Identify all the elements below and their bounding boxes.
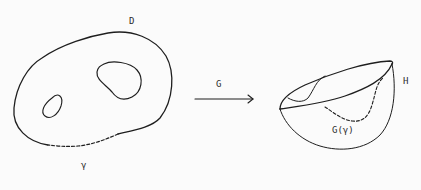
- hole-large: [97, 62, 141, 99]
- diagram-canvas: D γ G H G(γ): [0, 0, 421, 190]
- region-d-boundary: [14, 32, 172, 145]
- label-map-g: G: [216, 80, 221, 89]
- label-gamma: γ: [81, 161, 86, 170]
- diagram-svg: [0, 0, 421, 190]
- gamma-curve: [48, 134, 118, 146]
- label-surface-h: H: [403, 77, 408, 86]
- hole-small: [43, 95, 62, 117]
- surface-h-inner-curve: [288, 76, 325, 101]
- label-domain-d: D: [129, 17, 134, 26]
- label-g-gamma: G(γ): [332, 126, 354, 135]
- surface-h-rim-front: [280, 64, 392, 109]
- surface-h-rim-back: [280, 61, 393, 109]
